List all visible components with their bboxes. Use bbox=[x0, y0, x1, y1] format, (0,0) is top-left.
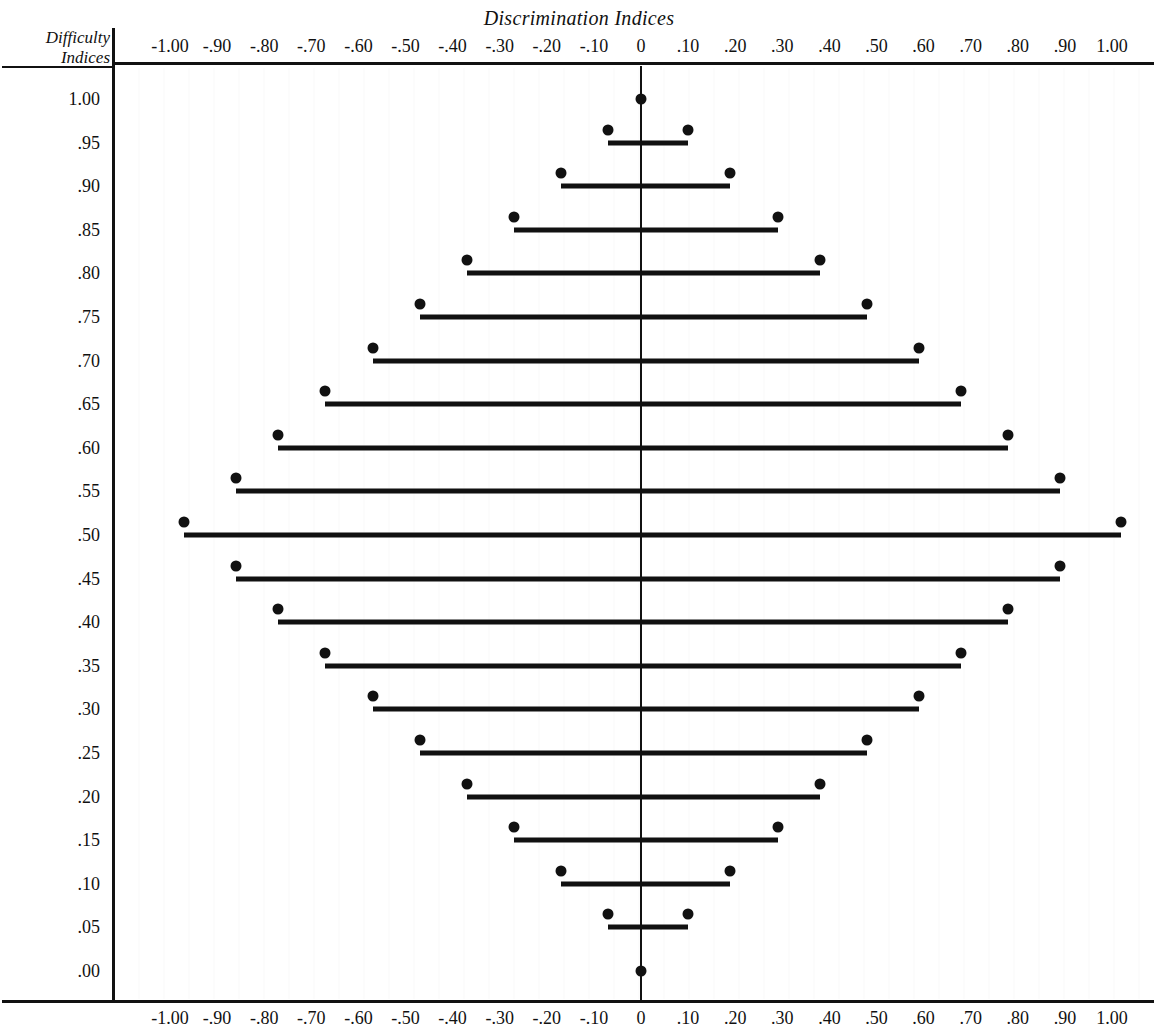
x-tick-label: .90 bbox=[1054, 1008, 1077, 1029]
x-tick-label: -.30 bbox=[485, 1008, 514, 1029]
range-bar bbox=[325, 402, 961, 407]
x-tick-label: .50 bbox=[865, 1008, 888, 1029]
range-bar bbox=[561, 184, 731, 189]
range-bar bbox=[184, 533, 1121, 538]
y-tick-label: .80 bbox=[8, 263, 100, 284]
x-tick-label: -.70 bbox=[297, 36, 326, 57]
y-tick-label: .75 bbox=[8, 307, 100, 328]
x-tick-label: .80 bbox=[1007, 36, 1030, 57]
x-tick-label: -.40 bbox=[438, 36, 467, 57]
x-tick-label: .10 bbox=[677, 36, 700, 57]
range-bar bbox=[514, 838, 778, 843]
endpoint-dot bbox=[367, 691, 378, 702]
range-bar bbox=[608, 140, 688, 145]
x-tick-label: .30 bbox=[771, 1008, 794, 1029]
endpoint-dot bbox=[913, 342, 924, 353]
x-tick-label: .70 bbox=[959, 36, 982, 57]
range-bar bbox=[561, 881, 731, 886]
endpoint-dot bbox=[603, 124, 614, 135]
x-tick-label: .80 bbox=[1007, 1008, 1030, 1029]
x-tick-label: -.50 bbox=[391, 1008, 420, 1029]
x-tick-label: -1.00 bbox=[151, 1008, 189, 1029]
x-tick-label: 0 bbox=[637, 36, 646, 57]
endpoint-dot bbox=[683, 909, 694, 920]
endpoint-dot bbox=[725, 865, 736, 876]
endpoint-dot bbox=[913, 691, 924, 702]
endpoint-dot bbox=[367, 342, 378, 353]
x-tick-label: 0 bbox=[637, 1008, 646, 1029]
y-tick-label: .45 bbox=[8, 568, 100, 589]
x-tick-label: .70 bbox=[959, 1008, 982, 1029]
range-bar bbox=[467, 271, 820, 276]
y-tick-label: .50 bbox=[8, 525, 100, 546]
x-tick-label: .40 bbox=[818, 36, 841, 57]
x-tick-label: 1.00 bbox=[1096, 1008, 1128, 1029]
endpoint-dot bbox=[179, 517, 190, 528]
x-tick-label: -.90 bbox=[203, 36, 232, 57]
y-tick-label: .35 bbox=[8, 655, 100, 676]
range-bar bbox=[420, 315, 867, 320]
range-bar bbox=[325, 663, 961, 668]
x-tick-label: -.30 bbox=[485, 36, 514, 57]
endpoint-dot bbox=[772, 211, 783, 222]
endpoint-dot bbox=[320, 647, 331, 658]
x-tick-label: -.90 bbox=[203, 1008, 232, 1029]
y-axis-line bbox=[112, 28, 115, 1003]
endpoint-dot bbox=[725, 168, 736, 179]
endpoint-dot bbox=[603, 909, 614, 920]
endpoint-dot bbox=[814, 778, 825, 789]
x-tick-label: -.70 bbox=[297, 1008, 326, 1029]
endpoint-dot bbox=[273, 429, 284, 440]
range-bar bbox=[420, 751, 867, 756]
range-bar bbox=[514, 227, 778, 232]
y-tick-label: .65 bbox=[8, 394, 100, 415]
x-tick-label: -.40 bbox=[438, 1008, 467, 1029]
x-tick-label: -.80 bbox=[250, 36, 279, 57]
endpoint-dot bbox=[230, 473, 241, 484]
y-tick-label: .15 bbox=[8, 830, 100, 851]
range-bar bbox=[236, 576, 1060, 581]
endpoint-dot bbox=[862, 299, 873, 310]
y-axis-title-line: Indices bbox=[14, 48, 110, 68]
x-tick-label: -.20 bbox=[533, 36, 562, 57]
y-tick-label: .85 bbox=[8, 219, 100, 240]
endpoint-dot bbox=[636, 966, 647, 977]
x-tick-label: -.60 bbox=[344, 1008, 373, 1029]
x-tick-label: -.50 bbox=[391, 36, 420, 57]
endpoint-dot bbox=[1003, 429, 1014, 440]
y-tick-label: .60 bbox=[8, 437, 100, 458]
x-tick-label: .20 bbox=[724, 1008, 747, 1029]
chart-canvas: Discrimination Indices DifficultyIndices… bbox=[0, 0, 1158, 1034]
bottom-axis-rule bbox=[2, 1000, 1154, 1003]
y-tick-label: .05 bbox=[8, 917, 100, 938]
range-bar bbox=[373, 707, 919, 712]
endpoint-dot bbox=[1003, 604, 1014, 615]
endpoint-dot bbox=[636, 94, 647, 105]
x-tick-label: .40 bbox=[818, 1008, 841, 1029]
x-tick-label: .90 bbox=[1054, 36, 1077, 57]
endpoint-dot bbox=[555, 865, 566, 876]
x-tick-label: .50 bbox=[865, 36, 888, 57]
endpoint-dot bbox=[461, 255, 472, 266]
y-tick-label: .40 bbox=[8, 612, 100, 633]
y-tick-label: .10 bbox=[8, 873, 100, 894]
range-bar bbox=[236, 489, 1060, 494]
endpoint-dot bbox=[461, 778, 472, 789]
y-tick-label: .55 bbox=[8, 481, 100, 502]
endpoint-dot bbox=[230, 560, 241, 571]
endpoint-dot bbox=[555, 168, 566, 179]
x-tick-label: .60 bbox=[912, 1008, 935, 1029]
x-tick-label: .30 bbox=[771, 36, 794, 57]
y-tick-label: .95 bbox=[8, 132, 100, 153]
endpoint-dot bbox=[320, 386, 331, 397]
endpoint-dot bbox=[956, 647, 967, 658]
endpoint-dot bbox=[1055, 560, 1066, 571]
y-tick-label: .90 bbox=[8, 176, 100, 197]
endpoint-dot bbox=[772, 822, 783, 833]
y-tick-label: 1.00 bbox=[8, 89, 100, 110]
x-tick-label: -.80 bbox=[250, 1008, 279, 1029]
y-tick-label: .30 bbox=[8, 699, 100, 720]
endpoint-dot bbox=[956, 386, 967, 397]
x-tick-label: .20 bbox=[724, 36, 747, 57]
x-tick-label: .10 bbox=[677, 1008, 700, 1029]
